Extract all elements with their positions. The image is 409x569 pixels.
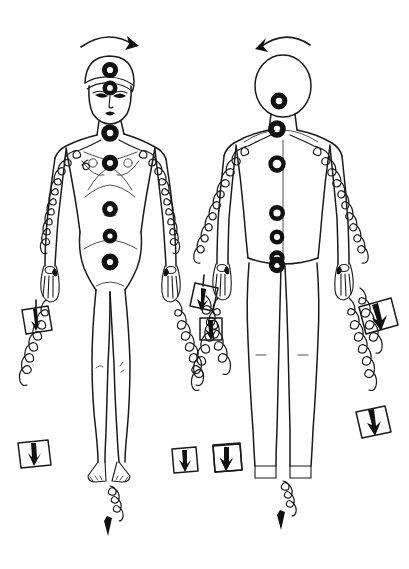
third-eye-chakra <box>105 83 115 93</box>
solar-plexus-chakra <box>105 204 116 215</box>
heart-chakra <box>104 157 115 168</box>
sacral-chakra <box>105 231 115 241</box>
energy-diagram-canvas <box>0 0 409 569</box>
root-chakra <box>104 256 116 268</box>
throat-chakra <box>104 127 116 139</box>
crown-chakra <box>104 64 115 75</box>
upper-back-chakra <box>271 158 284 171</box>
occiput-chakra <box>273 95 285 107</box>
cervical-chakra <box>271 123 283 135</box>
mid-back-chakra <box>271 207 283 219</box>
energy-diagram-svg <box>0 0 409 569</box>
lower-back-chakra <box>272 232 282 242</box>
